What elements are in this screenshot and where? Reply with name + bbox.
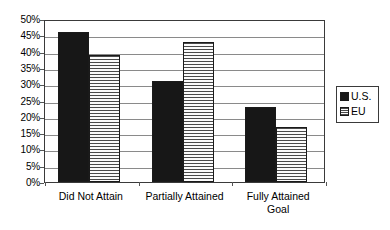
y-axis-tick-label: 35%: [0, 64, 40, 74]
y-axis-tick-label: 30%: [0, 80, 40, 90]
bar-chart: 50%45%40%35%30%25%20%15%10%5%0% Did Not …: [0, 0, 390, 230]
y-axis-tick-label: 5%: [0, 162, 40, 172]
y-axis-tick-label: 20%: [0, 113, 40, 123]
legend-item-eu: EU: [340, 104, 376, 119]
x-axis-category-label-line: Goal: [223, 203, 333, 216]
bar-eu-did-not-attain: [89, 55, 120, 182]
x-axis-category-label-line: Fully Attained: [223, 190, 333, 203]
bar-us-partially-attained: [152, 81, 183, 182]
y-axis-tick-label: 40%: [0, 48, 40, 58]
y-axis-tick-label: 50%: [0, 15, 40, 25]
y-axis-tick-label: 15%: [0, 129, 40, 139]
bar-us-did-not-attain: [58, 32, 89, 182]
y-axis-tick-label: 45%: [0, 31, 40, 41]
x-axis-tick-mark: [45, 182, 46, 186]
x-axis-tick-mark: [232, 182, 233, 186]
x-axis-category-label: Fully AttainedGoal: [223, 190, 333, 216]
x-axis-tick-mark: [139, 182, 140, 186]
legend-label-us: U.S.: [351, 91, 371, 102]
y-axis-tick-label: 0%: [0, 178, 40, 188]
bar-eu-partially-attained: [183, 42, 214, 182]
legend-swatch-us-icon: [340, 92, 349, 101]
chart-legend: U.S. EU: [336, 86, 379, 123]
legend-item-us: U.S.: [340, 89, 376, 104]
x-axis-category-labels: Did Not AttainPartially AttainedFully At…: [44, 190, 325, 228]
bars-layer: [45, 21, 324, 182]
y-axis-tick-label: 25%: [0, 97, 40, 107]
y-axis-tick-mark: [40, 183, 44, 184]
legend-label-eu: EU: [351, 106, 366, 117]
plot-area: [44, 20, 325, 183]
legend-swatch-eu-icon: [340, 107, 349, 116]
x-axis-tick-mark: [326, 182, 327, 186]
y-axis-tick-labels: 50%45%40%35%30%25%20%15%10%5%0%: [0, 20, 40, 183]
bar-eu-fully-attained-goal: [276, 127, 307, 182]
y-axis-tick-label: 10%: [0, 145, 40, 155]
bar-us-fully-attained-goal: [245, 107, 276, 182]
